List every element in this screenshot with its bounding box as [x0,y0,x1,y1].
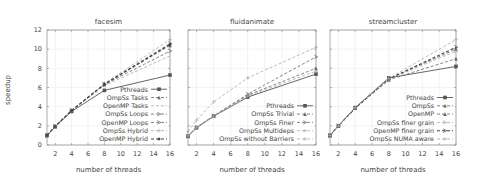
legend-item: OmpSs Loops [105,110,169,118]
x-tick-label: 2 [194,150,198,158]
x-tick-label: 12 [133,150,141,158]
figure-canvas: speedup 246810121416024681012facesimnumb… [0,0,484,187]
x-axis-label: number of threads [219,166,284,174]
legend-item: OmpSs NUMA aware [369,135,455,143]
x-tick-label: 16 [166,150,174,158]
x-tick-label: 6 [370,150,374,158]
legend-item: Pthreads [406,94,455,101]
legend-label: OmpSs finer grain [377,119,434,127]
legend-item: OpenMP finer grain [373,127,455,135]
legend-label: OmpSs [412,102,434,110]
legend-item: Pthreads [266,102,315,109]
x-tick-label: 14 [149,150,157,158]
x-tick-label: 10 [117,150,125,158]
x-tick-label: 14 [295,150,303,158]
y-axis-label: speedup [4,74,12,105]
legend-item: OmpSs [412,102,455,110]
y-tick-label: 2 [38,122,42,130]
x-axis-label: number of threads [360,166,425,174]
legend-label: OmpSs Hybrid [103,127,148,135]
legend-item: Pthreads [120,86,169,93]
legend-item: OmpSs finer grain [377,119,455,127]
chart-streamcluster: 246810121416streamclusternumber of threa… [328,18,460,174]
y-tick-label: 12 [34,26,42,34]
legend-label: OmpSs without Barriers [219,135,294,143]
x-tick-label: 16 [452,150,460,158]
legend-label: Pthreads [406,94,434,101]
legend-item: OpenMP Hybrid [99,135,169,143]
legend-item: OmpSs Trivial [251,110,315,118]
x-tick-label: 8 [102,150,106,158]
chart-title: facesim [95,18,123,26]
legend-item: OmpSs Hybrid [103,127,169,135]
x-tick-label: 8 [387,150,391,158]
legend-label: OmpSs Loops [105,110,148,118]
x-tick-label: 6 [229,150,233,158]
legend-label: OmpSs NUMA aware [369,135,434,143]
x-tick-label: 2 [53,150,57,158]
legend-label: OmpSs Trivial [251,110,294,118]
legend-label: OpenMP finer grain [373,127,434,135]
legend-label: OpenMP Loops [102,119,148,127]
x-tick-label: 10 [261,150,269,158]
x-tick-label: 8 [246,150,250,158]
x-tick-label: 6 [86,150,90,158]
legend-label: OmpSs Finer [254,119,294,127]
x-tick-label: 12 [418,150,426,158]
x-tick-label: 12 [278,150,286,158]
y-tick-label: 0 [38,141,42,149]
x-tick-label: 10 [401,150,409,158]
x-tick-label: 2 [336,150,340,158]
legend-label: OmpSs Multideps [239,127,294,135]
x-tick-label: 14 [435,150,443,158]
chart-facesim: 246810121416024681012facesimnumber of th… [34,18,174,174]
legend-item: OpenMP Tasks [103,102,169,110]
y-tick-label: 8 [38,65,42,73]
y-tick-label: 4 [38,103,42,111]
y-tick-label: 10 [34,45,42,53]
legend-item: OpenMP Loops [102,119,169,127]
x-tick-label: 4 [70,150,74,158]
legend-label: Pthreads [266,102,294,109]
chart-fluidanimate: 246810121416fluidanimatenumber of thread… [186,18,320,174]
chart-title: fluidanimate [230,18,274,26]
legend-label: OmpSs Tasks [107,94,148,102]
legend-item: OmpSs without Barriers [219,135,315,143]
legend-label: OpenMP Tasks [103,102,148,110]
x-tick-label: 4 [353,150,357,158]
y-tick-label: 6 [38,84,42,92]
legend-label: Pthreads [120,86,148,93]
x-tick-label: 16 [312,150,320,158]
chart-title: streamcluster [369,18,417,26]
x-tick-label: 4 [212,150,216,158]
x-axis-label: number of threads [76,166,141,174]
legend-item: OmpSs Tasks [107,94,169,102]
legend-item: OpenMP [408,110,455,118]
legend-item: OmpSs Finer [254,119,315,127]
legend-label: OpenMP [408,110,434,118]
legend-label: OpenMP Hybrid [99,135,148,143]
legend-item: OmpSs Multideps [239,127,315,135]
figure: speedup 246810121416024681012facesimnumb… [0,0,484,187]
